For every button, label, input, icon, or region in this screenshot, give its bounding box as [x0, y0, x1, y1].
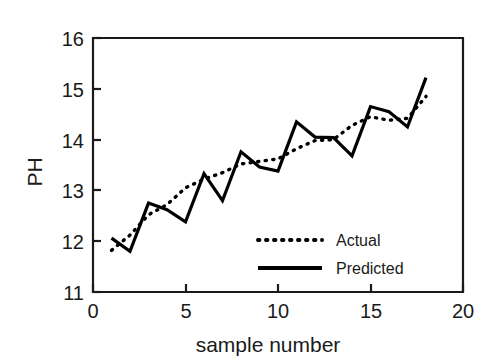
x-tick-label: 10: [267, 300, 289, 322]
y-axis-title: PH: [23, 157, 46, 186]
series-line-actual: [112, 96, 427, 250]
x-tick-label: 5: [180, 300, 191, 322]
y-tick-label: 12: [62, 231, 84, 253]
legend-label-actual: Actual: [336, 232, 380, 249]
x-tick-label: 20: [452, 300, 474, 322]
y-tick-label: 11: [63, 282, 84, 304]
legend-label-predicted: Predicted: [336, 260, 404, 277]
chart-canvas: 16 15 14 13 12 11 0 5 10 15 20 PH sample…: [0, 0, 494, 362]
x-tick-labels: 0 5 10 15 20: [87, 300, 474, 322]
x-axis-title: sample number: [196, 333, 341, 356]
series-line-predicted: [112, 78, 427, 252]
x-tick-label: 15: [360, 300, 382, 322]
figure-container: 16 15 14 13 12 11 0 5 10 15 20 PH sample…: [0, 0, 494, 362]
y-tick-marks: [93, 38, 101, 292]
y-tick-label: 16: [62, 28, 84, 50]
y-tick-label: 14: [62, 130, 84, 152]
legend: Actual Predicted: [258, 232, 404, 277]
x-tick-label: 0: [87, 300, 98, 322]
x-tick-marks: [93, 284, 463, 292]
y-tick-label: 15: [62, 79, 84, 101]
y-tick-labels: 16 15 14 13 12 11: [62, 28, 84, 304]
y-tick-label: 13: [62, 180, 84, 202]
axes-frame: [93, 38, 463, 292]
